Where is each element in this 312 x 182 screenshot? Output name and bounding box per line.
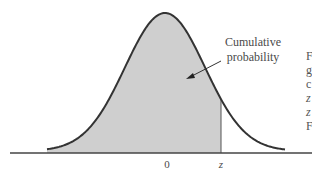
annotation-line2: probability bbox=[227, 50, 280, 64]
svg-text:z: z bbox=[305, 105, 311, 119]
annotation-line1: Cumulative bbox=[225, 35, 281, 49]
svg-text:c: c bbox=[306, 77, 311, 91]
mean-tick-label: 0 bbox=[164, 158, 170, 170]
svg-text:z: z bbox=[305, 91, 311, 105]
z-tick-label: z bbox=[218, 158, 224, 170]
svg-text:g: g bbox=[306, 63, 312, 77]
svg-text:F: F bbox=[306, 119, 312, 133]
cumulative-probability-shaded-area bbox=[47, 13, 221, 153]
cut-off-side-text: F g c z z F bbox=[305, 49, 312, 133]
normal-distribution-figure: Cumulative probability 0 z F g c z z F bbox=[0, 0, 312, 182]
svg-text:F: F bbox=[306, 49, 312, 63]
